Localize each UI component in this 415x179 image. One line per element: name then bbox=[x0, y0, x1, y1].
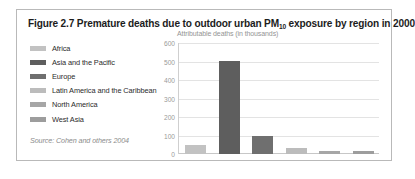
bar bbox=[252, 136, 273, 154]
source-note: Source: Cohen and others 2004 bbox=[30, 136, 129, 145]
legend-item: West Asia bbox=[30, 112, 170, 126]
bar bbox=[185, 145, 206, 154]
figure-title-main: Figure 2.7 Premature deaths due to outdo… bbox=[28, 18, 279, 29]
y-tick-label: 400 bbox=[164, 77, 175, 84]
legend-item-label: Asia and the Pacific bbox=[52, 58, 115, 67]
y-tick-label: 200 bbox=[164, 114, 175, 121]
bar bbox=[219, 61, 240, 154]
legend-swatch-icon bbox=[30, 46, 46, 51]
y-tick-label: 0 bbox=[171, 151, 175, 158]
legend-swatch-icon bbox=[30, 102, 46, 107]
legend-item: Latin America and the Caribbean bbox=[30, 84, 170, 98]
legend-item-label: Europe bbox=[52, 72, 75, 81]
chart-area: Attributable deaths (in thousands) 01002… bbox=[159, 30, 385, 156]
legend-swatch-icon bbox=[30, 74, 46, 79]
y-tick-label: 500 bbox=[164, 58, 175, 65]
figure-title: Figure 2.7 Premature deaths due to outdo… bbox=[28, 18, 384, 29]
plot-wrapper: 0100200300400500600 bbox=[159, 43, 379, 154]
legend-item-label: West Asia bbox=[52, 115, 84, 124]
legend-item: North America bbox=[30, 98, 170, 112]
legend-item-label: North America bbox=[52, 100, 98, 109]
figure-title-tail: exposure by region in 2000 bbox=[286, 18, 415, 29]
legend-item: Europe bbox=[30, 69, 170, 83]
y-axis: 0100200300400500600 bbox=[159, 43, 177, 154]
bar-series bbox=[179, 43, 379, 154]
legend-swatch-icon bbox=[30, 117, 46, 122]
y-tick-label: 600 bbox=[164, 40, 175, 47]
legend-item-label: Africa bbox=[52, 44, 70, 53]
bar bbox=[319, 151, 340, 154]
figure-panel: Figure 2.7 Premature deaths due to outdo… bbox=[16, 9, 392, 161]
legend-item-label: Latin America and the Caribbean bbox=[52, 86, 157, 95]
plot-region bbox=[178, 43, 379, 154]
legend-swatch-icon bbox=[30, 88, 46, 93]
chart-legend: AfricaAsia and the PacificEuropeLatin Am… bbox=[30, 41, 170, 126]
legend-item: Africa bbox=[30, 41, 170, 55]
y-tick-label: 100 bbox=[164, 132, 175, 139]
y-tick-label: 300 bbox=[164, 95, 175, 102]
legend-swatch-icon bbox=[30, 60, 46, 65]
legend-item: Asia and the Pacific bbox=[30, 55, 170, 69]
y-axis-title: Attributable deaths (in thousands) bbox=[177, 30, 278, 37]
bar bbox=[353, 151, 374, 154]
bar bbox=[286, 148, 307, 154]
figure-title-subscript: 10 bbox=[279, 23, 286, 30]
